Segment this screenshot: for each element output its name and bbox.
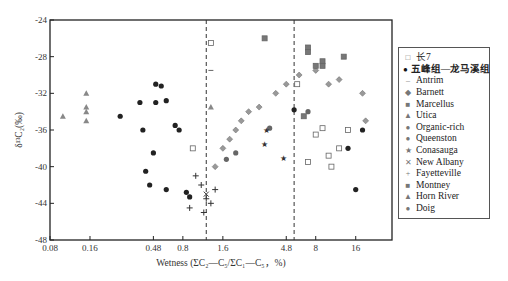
legend-marker-icon: ✕ [403,157,413,168]
legend-item: ✕New Albany [403,156,485,168]
legend-item: ★Conasauga [403,145,485,157]
data-point [320,63,325,68]
data-point [147,182,152,187]
legend-marker-icon: ▲ [403,191,413,202]
data-point [326,81,332,87]
data-point [295,82,300,87]
data-point [227,136,233,142]
legend-item: ●Queenston [403,133,485,145]
chart-figure: -24-28-32-36-40-44-480.080.160.480.81.64… [0,0,508,281]
legend-item: □长7 [403,52,485,64]
data-point [143,169,148,174]
data-point [273,90,279,96]
legend-label: Horn River [416,191,459,202]
data-point [326,153,331,158]
x-tick-label: 4.8 [281,243,293,253]
data-point [118,114,123,119]
plot-frame [50,20,392,240]
data-point [83,118,89,124]
data-point [187,194,192,199]
data-point [220,145,226,151]
data-point: ★ [263,126,270,135]
data-point [190,146,195,151]
data-point [153,100,158,105]
data-point [208,40,213,45]
legend-label: New Albany [416,157,464,168]
x-tick-label: 16 [351,243,361,253]
data-point [256,104,262,110]
legend-marker-icon: ● [403,122,413,133]
data-point [345,146,350,151]
data-point [246,109,252,115]
y-tick-label: -36 [35,125,47,135]
legend-label: Organic-rich [416,122,464,133]
data-point [306,160,311,165]
y-axis-label: δ¹³C₂(‰) [14,112,25,148]
data-point [305,109,310,114]
data-point [360,90,366,96]
data-point [208,104,214,110]
data-point [83,90,89,96]
legend-item: ●Organic-rich [403,122,485,134]
legend-marker-icon: ◆ [403,87,413,98]
data-point [283,81,289,87]
y-tick-label: -28 [35,52,47,62]
legend-marker-icon: – [403,75,413,86]
legend-marker-icon: ● [403,203,413,214]
data-point [233,127,239,133]
legend-item: +Fayetteville [403,168,485,180]
data-point [296,72,302,78]
data-point [313,63,318,68]
data-point: ★ [261,140,268,149]
data-point [177,127,182,132]
legend-item: –Antrim [403,75,485,87]
data-point [83,104,89,110]
legend-item: ●Doig [403,203,485,215]
legend-marker-icon: ■ [403,180,413,191]
data-point [341,54,346,59]
data-point [353,187,358,192]
legend-label: Fayetteville [416,168,461,179]
legend-marker-icon: □ [403,52,413,63]
data-point [151,150,156,155]
legend-marker-icon: ★ [403,145,413,156]
legend-label: Conasauga [416,145,458,156]
data-point [184,190,189,195]
legend-label: Utica [416,110,437,121]
legend-label: 长7 [416,52,431,63]
legend-marker-icon: ● [403,133,413,144]
x-axis-label: Wetness (ΣC₂—C₅/ΣC₁—C₅，%) [156,258,285,269]
data-point [313,132,318,137]
legend: □长7●五峰组—龙马溪组–Antrim◆Barnett■Marcellus▲Ut… [398,47,490,219]
data-point [363,118,369,124]
x-tick-label: 0.8 [177,243,189,253]
legend-item: ▲Horn River [403,191,485,203]
legend-item: ■Marcellus [403,98,485,110]
data-point [238,118,244,124]
data-point [60,113,66,119]
legend-item: ●五峰组—龙马溪组 [403,64,485,76]
data-point [329,164,334,169]
legend-label: Doig [416,203,435,214]
legend-marker-icon: ■ [403,99,413,110]
data-point [346,128,351,133]
legend-marker-icon: ● [403,64,408,75]
x-tick-label: 0.16 [82,243,98,253]
data-point [262,36,267,41]
x-tick-label: 8 [313,243,318,253]
data-point [164,187,169,192]
data-point [164,98,169,103]
data-point [301,114,306,119]
data-point [336,77,342,83]
data-point [292,107,297,112]
data-point [360,127,365,132]
legend-item: ▲Utica [403,110,485,122]
data-point: ★ [280,154,287,163]
legend-label: Antrim [416,75,443,86]
y-tick-label: -40 [35,162,47,172]
legend-label: Queenston [416,133,457,144]
legend-label: Marcellus [416,99,454,110]
legend-label: Montney [416,180,450,191]
data-point [153,82,158,87]
y-tick-label: -24 [35,15,47,25]
